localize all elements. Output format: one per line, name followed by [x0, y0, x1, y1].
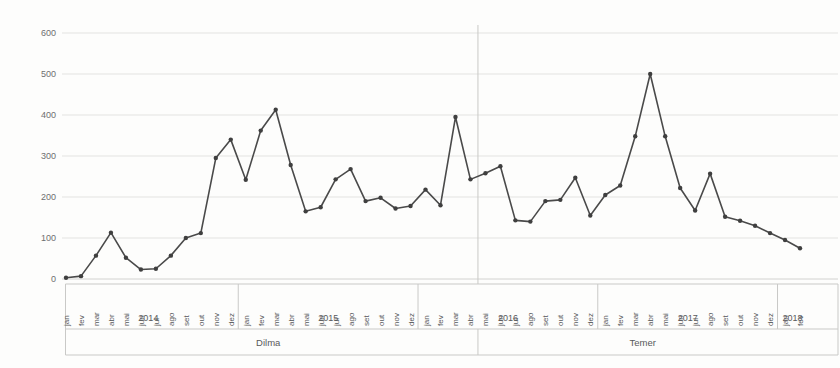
x-tick-label-month: fev — [436, 315, 445, 326]
data-point-marker[interactable] — [588, 213, 592, 217]
data-point-marker[interactable] — [229, 137, 233, 141]
x-tick-label-month: ago — [706, 312, 715, 326]
data-point-marker[interactable] — [723, 214, 727, 218]
y-tick-label-0: 0 — [51, 274, 56, 284]
x-tick-label-month: abr — [646, 314, 655, 326]
data-point-marker[interactable] — [768, 231, 772, 235]
data-point-marker[interactable] — [288, 163, 292, 167]
data-point-marker[interactable] — [498, 164, 502, 168]
data-point-marker[interactable] — [169, 253, 173, 257]
data-point-marker[interactable] — [513, 218, 517, 222]
x-tick-label-month: set — [182, 315, 191, 326]
y-tick-label-600: 600 — [41, 28, 56, 38]
x-tick-label-month: set — [362, 315, 371, 326]
data-point-marker[interactable] — [408, 204, 412, 208]
data-point-marker[interactable] — [64, 276, 68, 280]
x-tick-label-month: ago — [347, 312, 356, 326]
data-point-marker[interactable] — [244, 178, 248, 182]
data-point-marker[interactable] — [378, 196, 382, 200]
data-point-marker[interactable] — [303, 209, 307, 213]
data-point-marker[interactable] — [678, 186, 682, 190]
data-point-marker[interactable] — [199, 231, 203, 235]
x-tick-label-month: dez — [227, 313, 236, 326]
data-point-marker[interactable] — [573, 176, 577, 180]
data-point-marker[interactable] — [124, 255, 128, 259]
x-tick-label-month: abr — [107, 314, 116, 326]
data-point-marker[interactable] — [528, 219, 532, 223]
data-point-marker[interactable] — [333, 177, 337, 181]
data-point-marker[interactable] — [139, 267, 143, 271]
data-point-marker[interactable] — [94, 253, 98, 257]
data-point-marker[interactable] — [738, 219, 742, 223]
x-tick-label-month: mar — [92, 312, 101, 326]
y-tick-label-200: 200 — [41, 192, 56, 202]
x-tick-label-month: abr — [466, 314, 475, 326]
data-point-marker[interactable] — [274, 107, 278, 111]
data-point-marker[interactable] — [783, 238, 787, 242]
data-point-marker[interactable] — [648, 72, 652, 76]
data-point-marker[interactable] — [393, 206, 397, 210]
x-tick-label-month: jan — [242, 315, 251, 327]
data-point-marker[interactable] — [753, 224, 757, 228]
x-tick-label-month: set — [721, 315, 730, 326]
x-tick-label-month: out — [197, 314, 206, 326]
data-point-marker[interactable] — [798, 246, 802, 250]
x-tick-label-month: nov — [392, 313, 401, 326]
x-tick-label-month: nov — [212, 313, 221, 326]
data-point-marker[interactable] — [363, 199, 367, 203]
x-tick-label-month: out — [556, 314, 565, 326]
data-point-marker[interactable] — [618, 183, 622, 187]
data-point-marker[interactable] — [693, 208, 697, 212]
x-tick-label-month: nov — [751, 313, 760, 326]
x-tick-label-month: jan — [62, 315, 71, 327]
x-tick-label-month: nov — [571, 313, 580, 326]
x-axis-year-label: 2016 — [498, 313, 518, 323]
data-point-marker[interactable] — [558, 198, 562, 202]
x-axis-year-label: 2018 — [782, 313, 802, 323]
data-point-marker[interactable] — [468, 177, 472, 181]
data-point-marker[interactable] — [663, 134, 667, 138]
x-axis-year-label: 2015 — [318, 313, 338, 323]
x-tick-label-month: fev — [616, 315, 625, 326]
x-tick-label-month: jan — [601, 315, 610, 327]
x-tick-label-month: jan — [422, 315, 431, 327]
data-point-marker[interactable] — [543, 199, 547, 203]
data-point-marker[interactable] — [318, 205, 322, 209]
data-point-marker[interactable] — [259, 128, 263, 132]
data-point-marker[interactable] — [438, 203, 442, 207]
data-point-marker[interactable] — [214, 156, 218, 160]
data-point-marker[interactable] — [184, 236, 188, 240]
x-tick-label-month: mai — [122, 313, 131, 326]
x-tick-label-month: fev — [77, 315, 86, 326]
x-tick-label-month: dez — [407, 313, 416, 326]
data-point-marker[interactable] — [633, 134, 637, 138]
x-tick-label-month: out — [736, 314, 745, 326]
data-point-marker[interactable] — [708, 171, 712, 175]
data-point-marker[interactable] — [109, 230, 113, 234]
y-tick-label-100: 100 — [41, 233, 56, 243]
data-series-line — [66, 74, 800, 278]
data-point-marker[interactable] — [483, 171, 487, 175]
y-tick-label-400: 400 — [41, 110, 56, 120]
x-tick-label-month: dez — [586, 313, 595, 326]
x-tick-label-month: mar — [272, 312, 281, 326]
x-axis-government-label: Temer — [630, 337, 656, 348]
line-chart: 0100200300400500600janfevmarabrmaijunjul… — [0, 0, 840, 368]
x-tick-label-month: mar — [451, 312, 460, 326]
x-tick-label-month: fev — [257, 315, 266, 326]
x-tick-label-month: mai — [481, 313, 490, 326]
chart-plot-area: 0100200300400500600janfevmarabrmaijunjul… — [0, 0, 840, 368]
x-axis-government-label: Dilma — [256, 337, 281, 348]
x-tick-label-month: abr — [287, 314, 296, 326]
x-axis-year-label: 2017 — [678, 313, 698, 323]
data-point-marker[interactable] — [453, 115, 457, 119]
x-tick-label-month: mar — [631, 312, 640, 326]
x-tick-label-month: set — [541, 315, 550, 326]
data-point-marker[interactable] — [423, 187, 427, 191]
data-point-marker[interactable] — [603, 193, 607, 197]
data-point-marker[interactable] — [154, 267, 158, 271]
x-tick-label-month: dez — [766, 313, 775, 326]
data-point-marker[interactable] — [348, 167, 352, 171]
data-point-marker[interactable] — [79, 274, 83, 278]
y-tick-label-300: 300 — [41, 151, 56, 161]
